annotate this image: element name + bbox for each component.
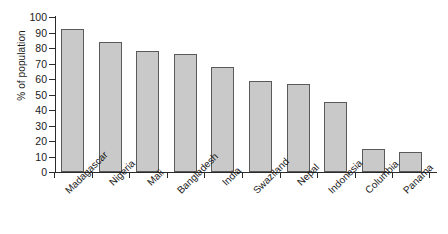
- y-tick-label: 10: [1, 151, 47, 163]
- y-tick-mark: [49, 48, 55, 49]
- x-tick-mark: [54, 173, 55, 178]
- y-axis-line: [55, 16, 56, 173]
- y-tick-label: 100: [1, 11, 47, 23]
- y-tick-label: 60: [1, 73, 47, 85]
- bar-chart-figure: % of population 0102030405060708090100 M…: [0, 0, 448, 234]
- y-tick-label: 90: [1, 27, 47, 39]
- y-tick-mark: [49, 110, 55, 111]
- y-tick-mark: [49, 17, 55, 18]
- x-tick-mark: [167, 173, 168, 178]
- bar: [136, 51, 159, 172]
- y-tick-label: 30: [1, 120, 47, 132]
- y-tick-label: 0: [1, 166, 47, 178]
- y-tick-mark: [49, 64, 55, 65]
- y-tick-mark: [49, 126, 55, 127]
- x-tick-mark: [129, 173, 130, 178]
- x-tick-mark: [242, 173, 243, 178]
- y-tick-mark: [49, 79, 55, 80]
- y-tick-mark: [49, 157, 55, 158]
- y-tick-mark: [49, 95, 55, 96]
- bar: [324, 102, 347, 172]
- y-tick-mark: [49, 141, 55, 142]
- x-tick-mark: [317, 173, 318, 178]
- y-tick-label: 40: [1, 104, 47, 116]
- y-tick-label: 20: [1, 135, 47, 147]
- bar: [287, 84, 310, 172]
- y-tick-mark: [49, 33, 55, 34]
- bar: [61, 29, 84, 172]
- y-axis-tick-labels: 0102030405060708090100: [0, 0, 47, 234]
- bar: [174, 54, 197, 172]
- y-tick-label: 50: [1, 89, 47, 101]
- y-tick-label: 80: [1, 42, 47, 54]
- y-tick-label: 70: [1, 58, 47, 70]
- bar: [249, 81, 272, 172]
